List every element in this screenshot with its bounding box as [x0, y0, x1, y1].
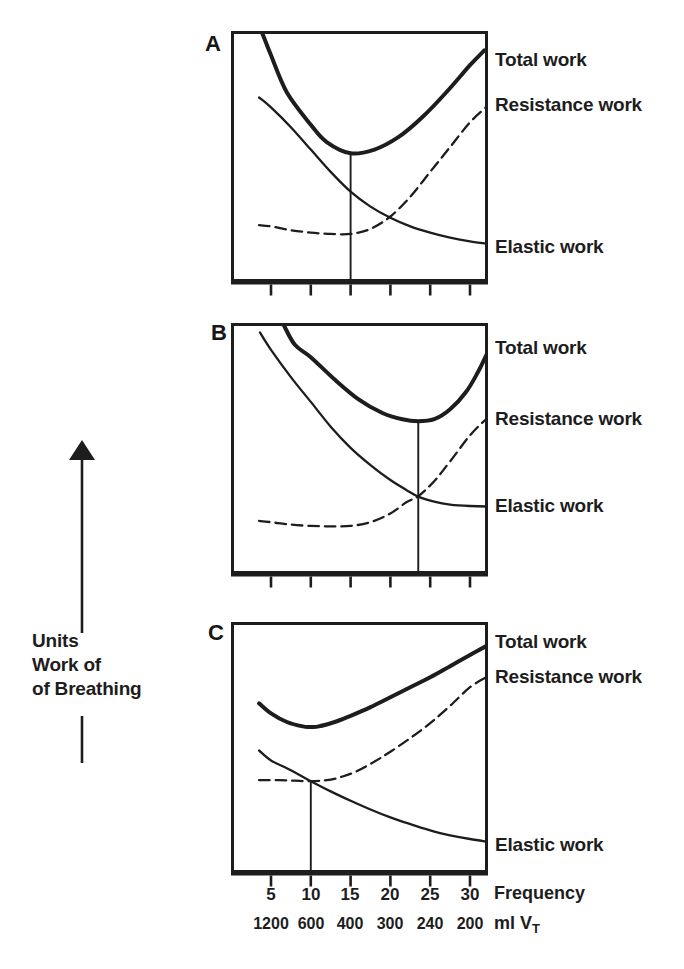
x-tick-15: 15: [328, 885, 372, 905]
vt-axis-title-subscript: T: [532, 921, 540, 936]
panel-a-elastic-work-label: Elastic work: [495, 236, 603, 258]
vt-tick-200: 200: [446, 915, 494, 933]
total-work-curve: [259, 646, 486, 727]
panel-b-plot: [231, 323, 488, 589]
total-work-curve: [262, 33, 484, 154]
resistance-work-curve: [259, 107, 486, 234]
panel-a-letter: A: [205, 31, 221, 57]
x-tick-20: 20: [368, 885, 412, 905]
panel-a-plot: [231, 31, 488, 297]
resistance-work-curve: [259, 677, 486, 781]
plot-box: [233, 33, 487, 283]
panel-b-svg: [231, 323, 488, 589]
panel-a-svg: [231, 31, 488, 297]
elastic-work-curve: [259, 98, 487, 244]
y-axis-label-line2: Work of: [32, 653, 142, 677]
resistance-work-curve: [259, 419, 486, 526]
figure-page: Units Work of of Breathing A B C Total w…: [0, 0, 684, 969]
panel-c-resistance-work-label: Resistance work: [495, 666, 642, 688]
y-axis-arrow-icon: [60, 438, 104, 768]
panel-a-resistance-work-label: Resistance work: [495, 94, 642, 116]
x-tick-5: 5: [249, 885, 293, 905]
y-axis-label: Units Work of of Breathing: [32, 629, 142, 701]
x-axis-title: Frequency: [494, 883, 585, 904]
panel-b-letter: B: [211, 320, 227, 346]
elastic-work-curve: [259, 751, 486, 842]
panel-b-total-work-label: Total work: [495, 337, 587, 359]
x-tick-10: 10: [289, 885, 333, 905]
panel-c-plot: [231, 622, 488, 888]
panel-b-elastic-work-label: Elastic work: [495, 495, 603, 517]
panel-c-svg: [231, 622, 488, 888]
panel-b-resistance-work-label: Resistance work: [495, 408, 642, 430]
x-tick-25: 25: [408, 885, 452, 905]
panel-c-total-work-label: Total work: [495, 631, 587, 653]
panel-c-letter: C: [208, 620, 224, 646]
x-tick-30: 30: [448, 885, 492, 905]
vt-axis-title-prefix: ml V: [494, 913, 532, 933]
panel-a-total-work-label: Total work: [495, 49, 587, 71]
plot-box: [233, 325, 487, 575]
elastic-work-curve: [260, 332, 488, 506]
y-axis-label-line1: Units: [32, 629, 142, 653]
vt-axis-title: ml VT: [494, 913, 540, 936]
y-axis-label-line3: of Breathing: [32, 677, 142, 701]
panel-c-elastic-work-label: Elastic work: [495, 834, 603, 856]
